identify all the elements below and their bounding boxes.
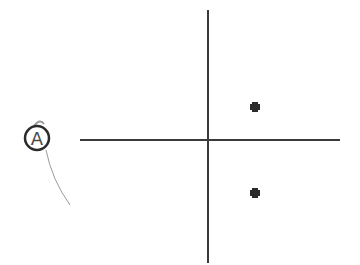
point-upper <box>250 102 260 112</box>
label-a: A <box>31 128 44 149</box>
tail-stroke <box>46 150 70 205</box>
point-lower <box>250 188 260 198</box>
circled-label: A <box>25 126 49 150</box>
diagram-canvas: A <box>0 0 360 265</box>
